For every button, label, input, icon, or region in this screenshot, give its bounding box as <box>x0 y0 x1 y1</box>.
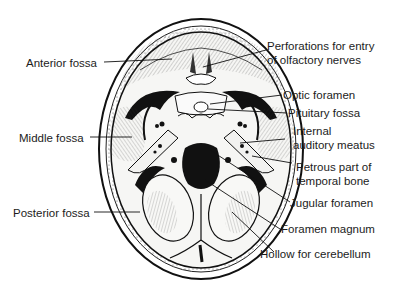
label-jugular-foramen: Jugular foramen <box>290 196 373 210</box>
label-perforations: Perforations for entry of olfactory nerv… <box>267 39 374 67</box>
label-petrous-line1: Petrous part of <box>296 160 371 174</box>
label-perforations-line1: Perforations for entry <box>267 39 374 53</box>
label-petrous-part: Petrous part of temporal bone <box>296 160 371 188</box>
label-posterior-fossa: Posterior fossa <box>13 206 90 220</box>
label-perforations-line2: of olfactory nerves <box>267 53 374 67</box>
label-hollow-cerebellum: Hollow for cerebellum <box>260 247 371 261</box>
label-petrous-line2: temporal bone <box>296 174 371 188</box>
label-anterior-fossa: Anterior fossa <box>26 56 97 70</box>
label-iam-line2: auditory meatus <box>293 138 375 152</box>
label-optic-foramen: Optic foramen <box>283 88 355 102</box>
label-pituitary-fossa: Pituitary fossa <box>288 106 360 120</box>
label-foramen-magnum: Foramen magnum <box>281 222 375 236</box>
skull-base-diagram: Anterior fossa Middle fossa Posterior fo… <box>0 0 398 287</box>
label-iam-line1: Internal <box>293 124 375 138</box>
label-middle-fossa: Middle fossa <box>19 131 84 145</box>
label-internal-auditory-meatus: Internal auditory meatus <box>293 124 375 152</box>
